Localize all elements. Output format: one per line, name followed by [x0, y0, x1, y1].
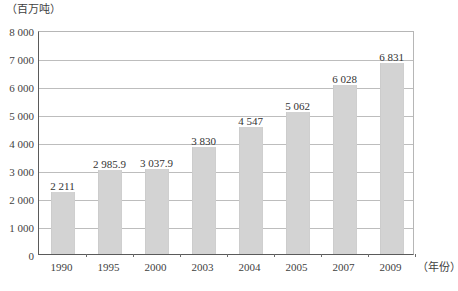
x-axis-tick-label: 2000: [145, 261, 167, 273]
bar[interactable]: [333, 85, 357, 254]
y-axis-tick-label: 4 000: [9, 139, 39, 150]
x-axis-tick: [180, 254, 181, 257]
bar-value-label: 6 831: [379, 51, 404, 63]
bar[interactable]: [239, 127, 263, 254]
y-axis-tick-label: 7 000: [9, 55, 39, 66]
bar[interactable]: [98, 170, 122, 254]
x-axis-tick: [227, 254, 228, 257]
x-axis-tick-label: 2009: [380, 261, 402, 273]
bar[interactable]: [286, 112, 310, 254]
y-axis-tick-label: 3 000: [9, 167, 39, 178]
bar-value-label: 4 547: [238, 115, 263, 127]
plot-area: 01 0002 0003 0004 0005 0006 0007 0008 00…: [38, 31, 414, 255]
y-axis-tick-label: 0: [29, 251, 40, 262]
bar-value-label: 2 985.9: [93, 158, 126, 170]
x-axis-tick: [321, 254, 322, 257]
y-axis-unit-caption: （百万吨）: [6, 3, 61, 16]
x-axis-tick-label: 2003: [192, 261, 214, 273]
x-axis-tick: [368, 254, 369, 257]
x-axis-tick: [274, 254, 275, 257]
bar-value-label: 5 062: [285, 100, 310, 112]
x-axis-tick-label: 1990: [51, 261, 73, 273]
bar[interactable]: [145, 169, 169, 254]
bar-value-label: 2 211: [50, 180, 74, 192]
x-axis-tick: [415, 254, 416, 257]
bar[interactable]: [380, 63, 404, 254]
y-axis-tick-label: 1 000: [9, 223, 39, 234]
y-axis-tick-label: 5 000: [9, 111, 39, 122]
bar-value-label: 3 830: [191, 135, 216, 147]
x-axis-tick-label: 2007: [333, 261, 355, 273]
bar[interactable]: [51, 192, 75, 254]
y-axis-tick-label: 8 000: [9, 27, 39, 38]
x-axis-tick: [133, 254, 134, 257]
bar-series: 2 2112 985.93 037.93 8304 5475 0626 0286…: [39, 32, 413, 254]
x-axis-caption: （年份）: [417, 261, 458, 273]
x-axis-tick: [86, 254, 87, 257]
y-axis-tick-label: 2 000: [9, 195, 39, 206]
y-axis-tick-label: 6 000: [9, 83, 39, 94]
bar-value-label: 6 028: [332, 73, 357, 85]
bar-value-label: 3 037.9: [140, 157, 173, 169]
bar[interactable]: [192, 147, 216, 254]
x-axis-tick-label: 2005: [286, 261, 308, 273]
x-axis-tick-label: 2004: [239, 261, 261, 273]
x-axis-tick-label: 1995: [98, 261, 120, 273]
